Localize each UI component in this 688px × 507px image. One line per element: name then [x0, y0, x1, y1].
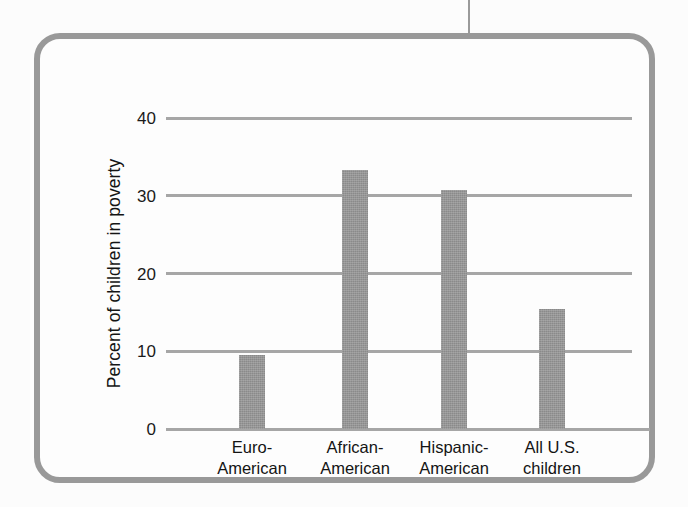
x-tick-label-line: American — [217, 458, 287, 479]
x-tick-label: All U.S.children — [523, 437, 581, 479]
x-tick-label: African-American — [320, 437, 390, 479]
y-tick-label: 30 — [137, 187, 156, 204]
figure-frame: Percent of children in poverty 010203040… — [34, 33, 655, 483]
y-tick-label: 40 — [137, 110, 156, 127]
x-tick-label-line: Hispanic- — [419, 437, 489, 458]
bar — [441, 190, 467, 429]
y-tick-label: 20 — [137, 265, 156, 282]
x-tick-label-line: American — [419, 458, 489, 479]
gridline — [166, 117, 632, 120]
plot-area: 010203040Euro-AmericanAfrican-AmericanHi… — [166, 118, 650, 429]
x-tick-label: Euro-American — [217, 437, 287, 479]
gridline — [166, 272, 632, 275]
bar — [342, 170, 368, 429]
x-tick-label-line: children — [523, 458, 581, 479]
bar — [539, 309, 565, 430]
x-tick-label-line: All U.S. — [523, 437, 581, 458]
y-axis-label-text: Percent of children in poverty — [105, 159, 126, 389]
gridline — [166, 194, 632, 197]
x-tick-label-line: American — [320, 458, 390, 479]
x-tick-label-line: Euro- — [217, 437, 287, 458]
y-axis-label: Percent of children in poverty — [102, 118, 128, 429]
x-tick-label: Hispanic-American — [419, 437, 489, 479]
y-tick-label: 10 — [137, 343, 156, 360]
x-tick-label-line: African- — [320, 437, 390, 458]
y-tick-label: 0 — [147, 421, 156, 438]
bar — [239, 355, 265, 429]
